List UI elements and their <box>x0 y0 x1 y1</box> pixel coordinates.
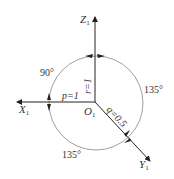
origin-label: O1 <box>84 105 96 119</box>
r-label: r=1 <box>82 78 93 94</box>
coordinate-diagram: Z1 X1 Y1 O1 p=1 r=1 q=0.5 90° 135° 135° <box>0 0 174 179</box>
z-axis-label: Z1 <box>80 13 90 27</box>
p-label: p=1 <box>61 90 79 101</box>
angle-90-label: 90° <box>40 67 54 78</box>
y-axis <box>95 102 150 161</box>
angle-135-lower-label: 135° <box>62 149 81 160</box>
x-axis-label: X1 <box>18 103 30 117</box>
angle-135-right-label: 135° <box>144 84 163 95</box>
y-axis-label: Y1 <box>139 158 149 172</box>
